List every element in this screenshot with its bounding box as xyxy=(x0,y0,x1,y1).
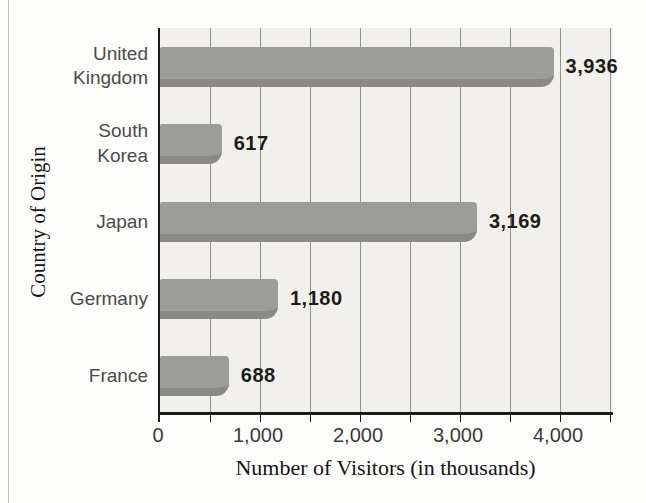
axis-tick xyxy=(560,415,561,422)
value-label: 688 xyxy=(241,364,276,387)
value-label: 3,169 xyxy=(489,210,542,233)
bar xyxy=(160,124,222,164)
category-label: Japan xyxy=(10,209,148,234)
page-edge-line xyxy=(8,0,9,503)
bar xyxy=(160,356,229,396)
x-tick-label: 0 xyxy=(152,424,163,447)
gridline xyxy=(560,28,561,412)
category-labels-column: United KingdomSouth KoreaJapanGermanyFra… xyxy=(10,28,148,415)
category-label: South Korea xyxy=(10,119,148,168)
value-label: 3,936 xyxy=(566,55,619,78)
axis-tick xyxy=(210,415,211,422)
category-label: Germany xyxy=(10,287,148,312)
category-label: United Kingdom xyxy=(10,42,148,91)
plot-area: 3,9366173,1691,180688 xyxy=(158,28,613,415)
bar xyxy=(160,279,278,319)
axis-tick xyxy=(360,415,361,422)
x-tick-label: 4,000 xyxy=(533,424,583,447)
gridline xyxy=(610,28,611,412)
page: Country of Origin United KingdomSouth Ko… xyxy=(0,0,646,503)
bar xyxy=(160,202,477,242)
y-axis-line xyxy=(158,415,160,422)
x-tick-label: 2,000 xyxy=(333,424,383,447)
axis-tick xyxy=(460,415,461,422)
axis-tick xyxy=(310,415,311,422)
axis-tick xyxy=(610,415,611,422)
value-label: 1,180 xyxy=(290,287,343,310)
x-tick-label: 3,000 xyxy=(433,424,483,447)
axis-tick xyxy=(510,415,511,422)
category-label: France xyxy=(10,364,148,389)
bar xyxy=(160,47,554,87)
x-axis-title: Number of Visitors (in thousands) xyxy=(158,455,613,481)
x-tick-label: 1,000 xyxy=(233,424,283,447)
axis-tick xyxy=(260,415,261,422)
axis-tick xyxy=(410,415,411,422)
value-label: 617 xyxy=(234,132,269,155)
